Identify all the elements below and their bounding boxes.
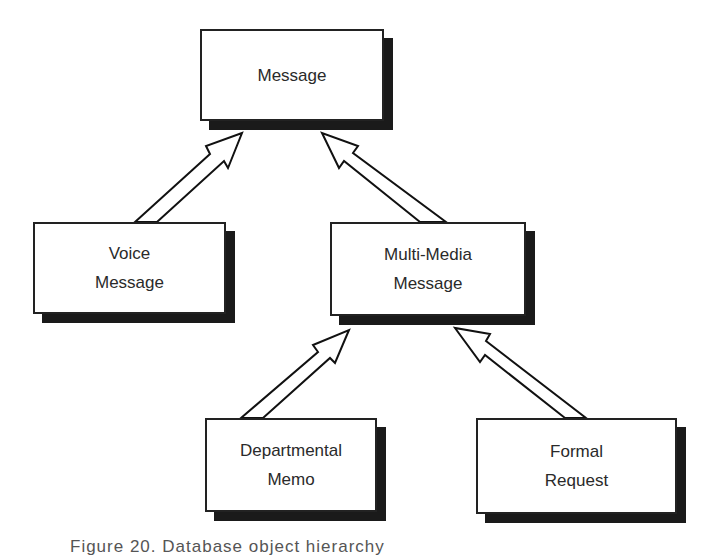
figure-caption: Figure 20. Database object hierarchy: [70, 537, 385, 557]
node-multimedia-message: Multi-Media Message: [330, 222, 526, 316]
node-label: Departmental: [240, 436, 342, 465]
arrow-voice-to-message: [135, 133, 242, 222]
node-label: Request: [545, 466, 608, 495]
node-label: Message: [258, 61, 327, 90]
arrow-multimedia-to-message: [322, 133, 446, 222]
node-label: Voice: [109, 239, 151, 268]
node-label: Message: [394, 269, 463, 298]
node-label: Multi-Media: [384, 240, 472, 269]
node-departmental-memo: Departmental Memo: [205, 418, 377, 512]
node-formal-request: Formal Request: [476, 418, 677, 514]
node-message: Message: [200, 29, 384, 121]
arrow-memo-to-multimedia: [241, 330, 349, 418]
node-label: Message: [95, 268, 164, 297]
node-label: Formal: [550, 437, 603, 466]
node-voice-message: Voice Message: [33, 222, 226, 314]
arrow-request-to-multimedia: [455, 328, 586, 418]
node-label: Memo: [267, 465, 314, 494]
